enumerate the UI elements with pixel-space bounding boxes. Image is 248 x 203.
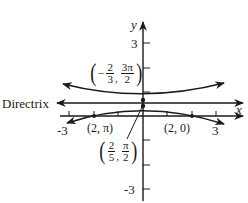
right-point-label: (2, 0) bbox=[164, 122, 190, 134]
theta-fraction: 3π 2 bbox=[121, 62, 134, 85]
x-axis-label: x bbox=[236, 103, 242, 116]
left-point bbox=[92, 114, 96, 118]
left-point-label: (2, π) bbox=[87, 122, 113, 134]
y-tick-label-3: 3 bbox=[131, 37, 138, 50]
directrix-label: Directrix bbox=[2, 97, 49, 110]
r-fraction: 2 3 bbox=[106, 62, 114, 85]
y-tick-label-neg3: -3 bbox=[124, 183, 135, 196]
upper-vertex-label: ( − 2 3 , 3π 2 ) bbox=[89, 60, 143, 86]
right-point bbox=[190, 114, 194, 118]
y-axis-label: y bbox=[131, 18, 137, 31]
r-fraction: 2 5 bbox=[108, 140, 116, 163]
x-tick-label-3: 3 bbox=[212, 124, 219, 137]
lower-vertex-label: ( 2 5 , π 2 ) bbox=[98, 138, 139, 164]
x-tick-label-neg3: -3 bbox=[57, 124, 68, 137]
upper-vertex-point bbox=[141, 98, 145, 102]
theta-fraction: π 2 bbox=[122, 140, 130, 163]
